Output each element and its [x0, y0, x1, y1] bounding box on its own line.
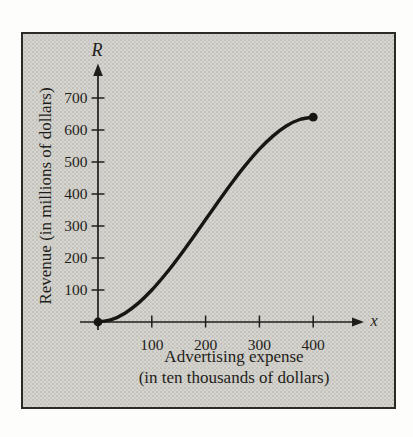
y-tick-label: 400 [64, 185, 88, 202]
x-axis-title-line1: Advertising expense [164, 347, 303, 367]
y-tick-label: 500 [64, 153, 88, 170]
x-tick-label: 100 [140, 336, 164, 353]
x-axis-title-line2: (in ten thousands of dollars) [139, 368, 330, 388]
y-axis-arrowhead-icon [93, 64, 103, 77]
x-axis-arrowhead-icon [352, 317, 364, 326]
x-axis-symbol: x [370, 312, 377, 330]
curve-start-dot [94, 318, 103, 327]
x-tick-label: 400 [302, 336, 326, 353]
y-tick-label: 100 [64, 281, 88, 298]
y-axis-title: Revenue (in millions of dollars) [36, 87, 56, 304]
y-tick-label: 700 [64, 89, 88, 106]
tick-labels-group: 100200300400100200300400500600700 [64, 89, 325, 353]
curve-group [94, 113, 318, 327]
y-tick-label: 200 [64, 249, 88, 266]
curve-end-dot [309, 113, 318, 122]
y-axis-symbol: R [92, 40, 103, 61]
y-tick-label: 600 [64, 121, 88, 138]
figure-frame: 100200300400100200300400500600700 Revenu… [21, 32, 396, 409]
revenue-curve [98, 117, 313, 322]
y-tick-label: 300 [64, 217, 88, 234]
